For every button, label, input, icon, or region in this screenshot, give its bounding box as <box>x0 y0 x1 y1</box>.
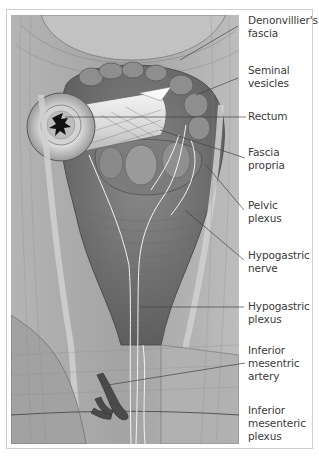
leader-lines <box>0 0 319 457</box>
leader-denonvillier <box>180 26 238 60</box>
leader-hypogastric-nerve <box>185 210 244 260</box>
leader-pelvic-plexus <box>205 164 244 210</box>
leader-seminal <box>196 78 238 95</box>
leader-ima <box>108 363 245 385</box>
leader-fascia-propria <box>160 130 245 158</box>
